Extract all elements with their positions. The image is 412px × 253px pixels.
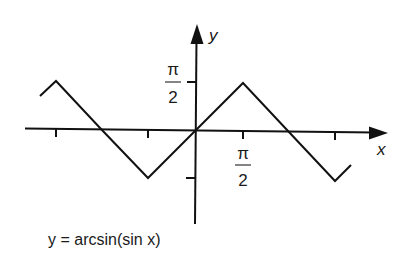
x-axis <box>25 129 375 133</box>
y-axis-arrow-icon <box>191 24 204 44</box>
y-axis-label: y <box>208 26 219 45</box>
chart-caption: y = arcsin(sin x) <box>48 231 160 248</box>
x-tick-label-pi-over-2: π 2 <box>235 144 251 190</box>
svg-text:π: π <box>237 144 249 163</box>
x-axis-label: x <box>376 140 386 159</box>
svg-text:π: π <box>167 60 179 79</box>
y-tick-label-pi-over-2: π 2 <box>165 60 181 107</box>
svg-text:2: 2 <box>168 88 177 107</box>
chart-canvas: π 2 π 2 y x y = arcsin(sin x) <box>0 0 412 253</box>
svg-text:2: 2 <box>238 171 247 190</box>
x-axis-arrow-icon <box>369 127 388 140</box>
